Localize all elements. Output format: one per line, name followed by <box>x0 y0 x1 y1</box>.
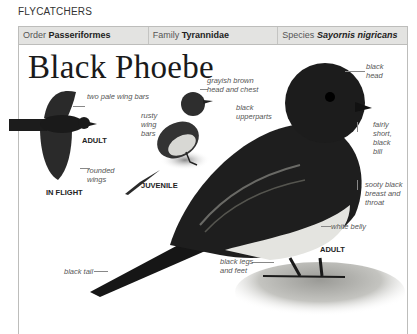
flight-age-tag: ADULT <box>82 136 107 145</box>
leader-line <box>357 180 358 190</box>
label-rusty-wing-bars: rusty wing bars <box>141 111 167 138</box>
leader-line <box>321 226 331 227</box>
leader-line <box>94 271 108 272</box>
adult-bird-image <box>90 63 405 322</box>
leader-line <box>357 122 358 132</box>
label-sooty-black-breast: sooty black breast and throat <box>365 180 405 207</box>
label-short-black-bill: fairly short, black bill <box>373 120 397 156</box>
leader-line <box>252 262 274 263</box>
leader-line <box>73 106 85 107</box>
label-white-belly: white belly <box>331 222 366 231</box>
adult-caption: ADULT <box>320 245 345 254</box>
label-rounded-wings: rounded wings <box>87 166 127 184</box>
leader-line <box>345 71 365 72</box>
label-grayish-brown-head: grayish brown head and chest <box>207 76 267 94</box>
label-black-tail: black tail <box>64 267 93 276</box>
flight-caption: IN FLIGHT <box>46 188 83 197</box>
juvenile-caption: JUVENILE <box>141 181 178 190</box>
label-two-pale-wing-bars: two pale wing bars <box>87 92 149 101</box>
label-black-legs-feet: black legs and feet <box>220 257 254 275</box>
label-black-upperparts: black upperparts <box>236 103 284 121</box>
juvenile-bird-image <box>125 92 213 195</box>
label-black-head: black head <box>366 62 386 80</box>
